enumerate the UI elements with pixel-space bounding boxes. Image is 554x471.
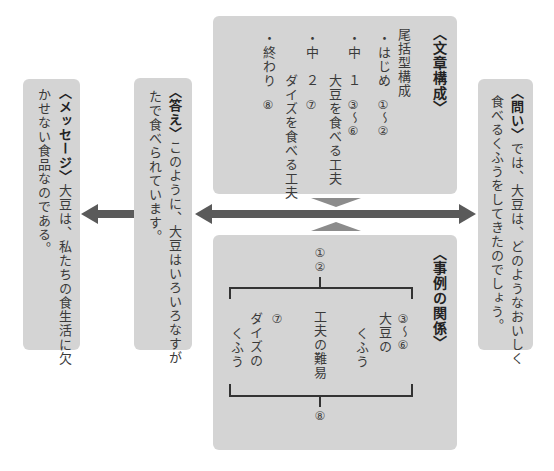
relation-top-1: ①	[313, 246, 327, 260]
structure-item-owari-range: ⑧	[262, 98, 274, 113]
arrow-right-head-icon	[459, 204, 476, 224]
relation-left-label-1: ダイズの	[249, 312, 262, 368]
relation-center-label: 工夫の難易	[313, 310, 326, 380]
message-line-1: 〈メッセージ〉大豆は、私たちの食生活に欠	[55, 86, 74, 366]
down-triangle-icon	[311, 198, 361, 207]
relation-bottom: ⑧	[313, 409, 327, 423]
structure-item-naka2-range: ⑦	[305, 98, 317, 113]
bracket-bottom-stem	[319, 396, 321, 407]
question-label: 〈問い〉	[510, 86, 525, 142]
relation-top-2: ②	[313, 260, 327, 274]
structure-type: 尾括型構成	[397, 28, 410, 98]
arrow-left-head-icon	[195, 204, 212, 224]
answer-line-1: 〈答え〉このように、大豆はいろいろなすが	[165, 85, 184, 365]
relation-left-range: ⑦	[271, 312, 283, 327]
structure-item-hajime: ・はじめ	[377, 32, 390, 88]
structure-item-naka1-range: ③〜⑥	[347, 98, 359, 138]
relation-left-label-2: くふう	[230, 327, 243, 369]
relation-title: 〈事例の関係〉	[432, 246, 446, 351]
structure-item-owari: ・終わり	[262, 32, 275, 88]
bracket-top-right-tick	[411, 287, 413, 299]
structure-item-naka2-detail: ダイズを食べる工夫	[284, 74, 297, 200]
main-arrow-shaft	[210, 210, 460, 218]
secondary-arrow-shaft	[96, 210, 134, 218]
relation-right-label-1: 大豆の	[378, 312, 391, 354]
structure-item-hajime-range: ①〜②	[377, 98, 389, 138]
secondary-arrow-head-icon	[81, 204, 98, 224]
message-label: 〈メッセージ〉	[58, 86, 73, 184]
structure-title: 〈文章構成〉	[432, 26, 446, 116]
message-line-2: かせない食品なのである。	[34, 88, 53, 256]
up-triangle-icon	[311, 222, 361, 231]
question-line-1: 〈問い〉では、大豆は、どのようなおいしく	[507, 86, 526, 366]
structure-item-naka2: ・中 ２	[305, 32, 318, 88]
bracket-top-horizontal	[229, 287, 413, 289]
bracket-top-left-tick	[229, 287, 231, 299]
relation-right-label-2: くふう	[355, 327, 368, 369]
question-line-2: 食べるくふうをしてきたのでしょう。	[487, 95, 506, 333]
answer-line-2: たで食べられています。	[145, 90, 164, 244]
structure-item-naka1: ・中 １	[347, 32, 360, 88]
bracket-bottom-horizontal	[229, 395, 413, 397]
relation-right-range: ③〜⑥	[397, 312, 409, 352]
answer-label: 〈答え〉	[168, 85, 183, 141]
structure-item-naka1-detail: 大豆を食べる工夫	[328, 74, 341, 186]
